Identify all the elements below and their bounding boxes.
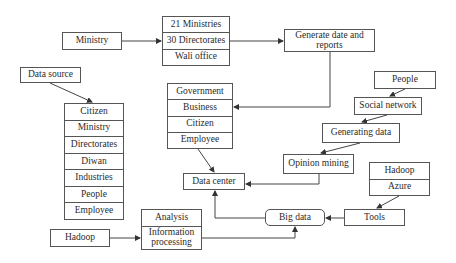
stack-cell-21-ministries: 21 Ministries	[163, 17, 229, 32]
stack-cell-business: Business	[168, 99, 232, 115]
social-network-label: Social network	[359, 101, 416, 111]
data-center-label: Data center	[192, 177, 236, 187]
hadoop-label: Hadoop	[65, 233, 95, 243]
source-list-stack: Citizen Ministry Directorates Diwan Indu…	[64, 103, 124, 220]
stack-cell-employee: Employee	[168, 132, 232, 148]
social-network-node: Social network	[354, 97, 422, 115]
stack-cell-information-processing: Information processing	[142, 226, 201, 249]
big-data-node: Big data	[265, 209, 325, 226]
tools-node: Tools	[344, 209, 405, 226]
stack-cell-wali-office: Wali office	[163, 49, 229, 65]
stack-cell-citizen: Citizen	[168, 116, 232, 132]
opinion-mining-node: Opinion mining	[283, 154, 354, 174]
stack-cell-hadoop: Hadoop	[370, 163, 429, 179]
tools-label: Tools	[364, 213, 385, 223]
stack-cell-citizen: Citizen	[65, 104, 123, 120]
stack-cell-employee: Employee	[65, 202, 123, 219]
data-source-node: Data source	[20, 67, 81, 83]
people-label: People	[392, 75, 418, 85]
opinion-mining-label: Opinion mining	[288, 159, 348, 169]
generating-data-node: Generating data	[322, 123, 400, 143]
stack-cell-industries: Industries	[65, 169, 123, 186]
ministry-units-stack: 21 Ministries 30 Directorates Wali offic…	[162, 16, 230, 66]
stack-cell-30-directorates: 30 Directorates	[163, 32, 229, 48]
ministry-node: Ministry	[62, 32, 122, 50]
generating-data-label: Generating data	[331, 128, 391, 138]
stack-cell-analysis: Analysis	[142, 210, 201, 226]
ministry-label: Ministry	[76, 36, 109, 46]
stack-cell-government: Government	[168, 84, 232, 99]
cloud-tools-stack: Hadoop Azure	[369, 162, 430, 196]
people-node: People	[374, 71, 436, 89]
stack-cell-directorates: Directorates	[65, 136, 123, 153]
big-data-label: Big data	[279, 213, 311, 223]
stack-cell-people: People	[65, 186, 123, 203]
stack-cell-ministry: Ministry	[65, 120, 123, 137]
processing-stack: Analysis Information processing	[141, 209, 202, 250]
data-source-label: Data source	[28, 70, 73, 80]
data-center-node: Data center	[183, 173, 245, 190]
stack-cell-diwan: Diwan	[65, 153, 123, 170]
generate-reports-label: Generate date and reports	[290, 31, 370, 51]
stack-cell-azure: Azure	[370, 179, 429, 196]
hadoop-node: Hadoop	[50, 229, 110, 247]
generate-reports-node: Generate date and reports	[284, 29, 375, 52]
stakeholders-stack: Government Business Citizen Employee	[167, 83, 233, 149]
